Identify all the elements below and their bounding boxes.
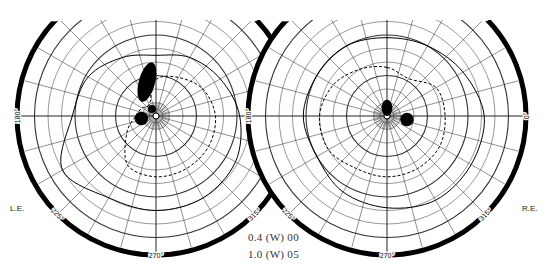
- meridian-label: 270°: [149, 252, 164, 259]
- scotoma: [148, 105, 156, 113]
- meridian-label: 180°: [14, 109, 21, 124]
- meridian-label: 45°: [480, 14, 491, 21]
- left-eye-label: L.E.: [10, 204, 24, 213]
- scotoma: [382, 100, 393, 116]
- meridian-label: 270°: [380, 252, 395, 259]
- scotoma: [135, 112, 149, 126]
- meridian-label: 0°: [523, 112, 530, 119]
- meridian-label: 180°: [245, 109, 252, 124]
- right-eye-label: R.E.: [522, 204, 538, 213]
- meridian-label: 135°: [50, 14, 65, 21]
- legend-item-solid: 1.0 (W) 05: [248, 248, 299, 260]
- meridian-label: 135°: [281, 14, 296, 21]
- scotoma: [400, 113, 414, 127]
- meridian-label: 45°: [249, 14, 260, 21]
- legend-item-dashed: 0.4 (W) 00: [248, 231, 299, 243]
- right-eye-field: 135°45°180°0°225°315°270°: [245, 0, 530, 259]
